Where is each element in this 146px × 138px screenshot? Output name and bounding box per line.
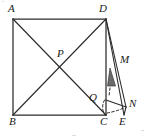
scan-speck: [72, 135, 76, 136]
vertex-label-n: N: [129, 98, 136, 109]
dashed-CN-arc: [107, 108, 125, 114]
vertex-label-q: Q: [89, 92, 97, 103]
shaded-triangle-at-M: [108, 68, 116, 86]
external-triangle: [106, 19, 126, 115]
geometry-figure: A D B C E N M P Q: [0, 0, 146, 138]
segment-QN-line: [106, 100, 126, 107]
scan-speck: [141, 130, 144, 131]
vertex-label-d: D: [99, 3, 107, 14]
segment-NE-line: [124, 107, 126, 115]
vertex-label-c: C: [100, 116, 107, 127]
vertex-label-b: B: [9, 116, 16, 127]
vertex-label-e: E: [119, 116, 126, 127]
scan-speck: [2, 1, 4, 2]
shaded-triangle-fill: [108, 68, 116, 86]
vertex-label-p: P: [57, 48, 64, 59]
dashed-tick-upper: [109, 88, 110, 96]
vertex-label-m: M: [120, 54, 129, 65]
vertex-label-a: A: [8, 3, 15, 14]
